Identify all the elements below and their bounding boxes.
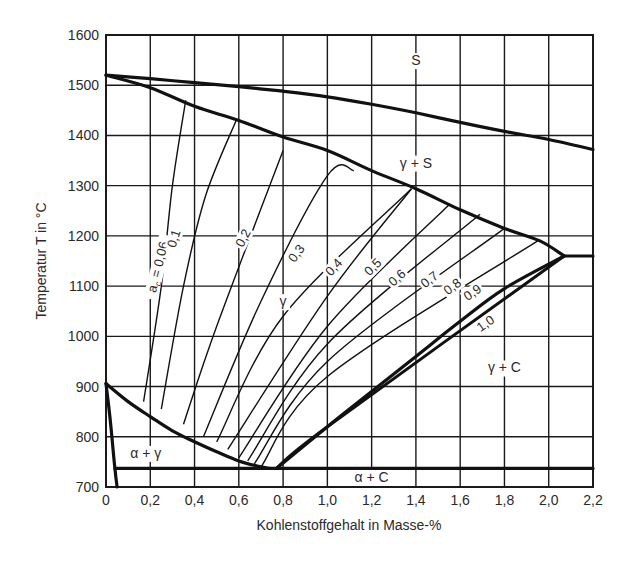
region-label: S bbox=[409, 52, 423, 69]
y-tick-label: 1100 bbox=[69, 278, 99, 294]
x-tick-label: 0 bbox=[102, 492, 110, 508]
isoline-label: 0,5 bbox=[360, 254, 386, 280]
x-tick-label: 2,2 bbox=[583, 492, 603, 508]
isoline-label: 0,3 bbox=[284, 240, 309, 267]
carbon-activity-isolines bbox=[144, 100, 565, 468]
x-tick-label: 0,8 bbox=[273, 492, 293, 508]
x-tick-label: 1,8 bbox=[495, 492, 515, 508]
region-label: γ + S bbox=[393, 155, 439, 172]
x-tick-label: 1,2 bbox=[362, 492, 382, 508]
y-axis-label: Temperatur T in °C bbox=[33, 202, 49, 319]
svg-text:S: S bbox=[411, 52, 420, 68]
iron-carbon-phase-diagram: ac = 0,060,10,20,30,40,50,60,70,80,91,0 … bbox=[0, 0, 621, 569]
svg-text:0,5: 0,5 bbox=[361, 255, 384, 278]
y-tick-label: 700 bbox=[76, 479, 100, 495]
region-label: γ bbox=[276, 293, 290, 310]
y-tick-label: 1400 bbox=[68, 127, 99, 143]
region-label: γ + C bbox=[481, 359, 527, 376]
x-tick-label: 1,6 bbox=[450, 492, 470, 508]
region-label: α + γ bbox=[123, 445, 169, 462]
y-tick-label: 1000 bbox=[68, 328, 99, 344]
isoline-label: 0,2 bbox=[231, 225, 255, 251]
x-tick-label: 0,2 bbox=[141, 492, 161, 508]
svg-text:0,4: 0,4 bbox=[322, 255, 345, 278]
y-tick-label: 800 bbox=[76, 429, 100, 445]
isoline-label: 1,0 bbox=[472, 311, 499, 336]
x-tick-label: 0,4 bbox=[185, 492, 205, 508]
svg-text:γ + C: γ + C bbox=[488, 359, 521, 375]
x-axis-ticks: 00,20,40,60,81,01,21,41,61,82,02,2 bbox=[102, 492, 603, 508]
y-tick-label: 1200 bbox=[68, 228, 99, 244]
isoline-label: 0,1 bbox=[163, 226, 184, 252]
y-tick-label: 1600 bbox=[68, 27, 99, 43]
x-tick-label: 0,6 bbox=[229, 492, 249, 508]
svg-text:α + C: α + C bbox=[355, 469, 389, 485]
y-tick-label: 1300 bbox=[68, 178, 99, 194]
x-tick-label: 1,4 bbox=[406, 492, 426, 508]
svg-text:γ: γ bbox=[280, 293, 287, 309]
svg-text:α + γ: α + γ bbox=[130, 445, 161, 461]
plot-frame bbox=[106, 35, 593, 487]
svg-text:γ + S: γ + S bbox=[400, 155, 432, 171]
y-tick-label: 900 bbox=[76, 379, 100, 395]
svg-text:1,0: 1,0 bbox=[474, 312, 497, 335]
x-tick-label: 2,0 bbox=[539, 492, 559, 508]
boundary-ferrite-solvus bbox=[106, 384, 117, 488]
isoline-ac-01 bbox=[161, 119, 236, 409]
isoline-ac-06 bbox=[239, 205, 449, 458]
region-label: α + C bbox=[349, 469, 395, 486]
y-tick-label: 1500 bbox=[68, 77, 99, 93]
grid-lines bbox=[106, 35, 593, 487]
isoline-labels: ac = 0,060,10,20,30,40,50,60,70,80,91,0 bbox=[142, 225, 498, 336]
x-tick-label: 1,0 bbox=[318, 492, 338, 508]
x-axis-label: Kohlenstoffgehalt in Masse-% bbox=[257, 517, 442, 533]
y-axis-ticks: 7008009001000110012001300140015001600 bbox=[68, 27, 99, 495]
isoline-ac-05 bbox=[228, 189, 412, 450]
